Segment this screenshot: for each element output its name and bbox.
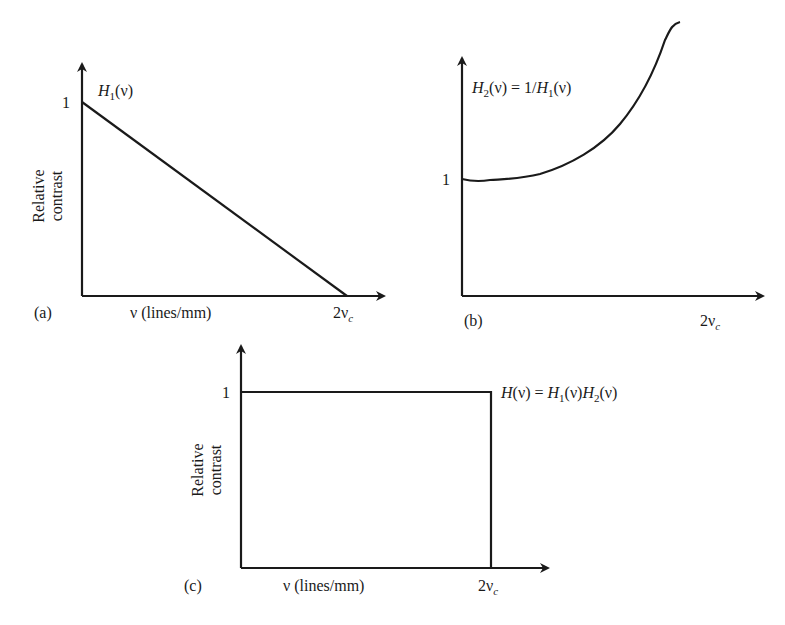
panel-c-x-label: ν (lines/mm) (283, 577, 364, 595)
panel-a-y-tick-1: 1 (62, 94, 70, 111)
panel-b-h2-curve (462, 22, 680, 181)
panel-a-panel-label: (a) (34, 304, 52, 322)
panel-a-x-end-label: 2νc (333, 304, 353, 324)
panel-a: 1 H1(ν) Relative contrast (a) ν (lines/m… (30, 64, 384, 324)
svg-text:Relative: Relative (30, 169, 47, 222)
panel-c-y-label: Relative contrast (189, 443, 224, 496)
panel-b: 1 H2(ν) = 1/H1(ν) (b) 2νc (442, 22, 763, 332)
panel-c-x-end-label: 2νc (478, 577, 498, 597)
panel-b-curve-label: H2(ν) = 1/H1(ν) (471, 79, 571, 99)
panel-a-curve-label: H1(ν) (97, 82, 133, 102)
svg-text:contrast: contrast (207, 444, 224, 495)
panel-c-h-rect-line (241, 392, 491, 568)
panel-b-panel-label: (b) (464, 312, 483, 330)
panel-c: 1 H(ν) = H1(ν)H2(ν) Relative contrast (c… (184, 346, 617, 597)
panel-a-x-label: ν (lines/mm) (130, 304, 211, 322)
svg-text:Relative: Relative (189, 443, 206, 496)
panel-c-y-tick-1: 1 (222, 384, 230, 401)
svg-text:contrast: contrast (48, 170, 65, 221)
panel-b-x-end-label: 2νc (700, 312, 720, 332)
panel-a-h1-line (82, 102, 347, 296)
panel-b-y-tick-1: 1 (442, 171, 450, 188)
panel-c-curve-label: H(ν) = H1(ν)H2(ν) (500, 384, 617, 404)
panel-c-panel-label: (c) (184, 577, 202, 595)
panel-a-y-label: Relative contrast (30, 169, 65, 222)
